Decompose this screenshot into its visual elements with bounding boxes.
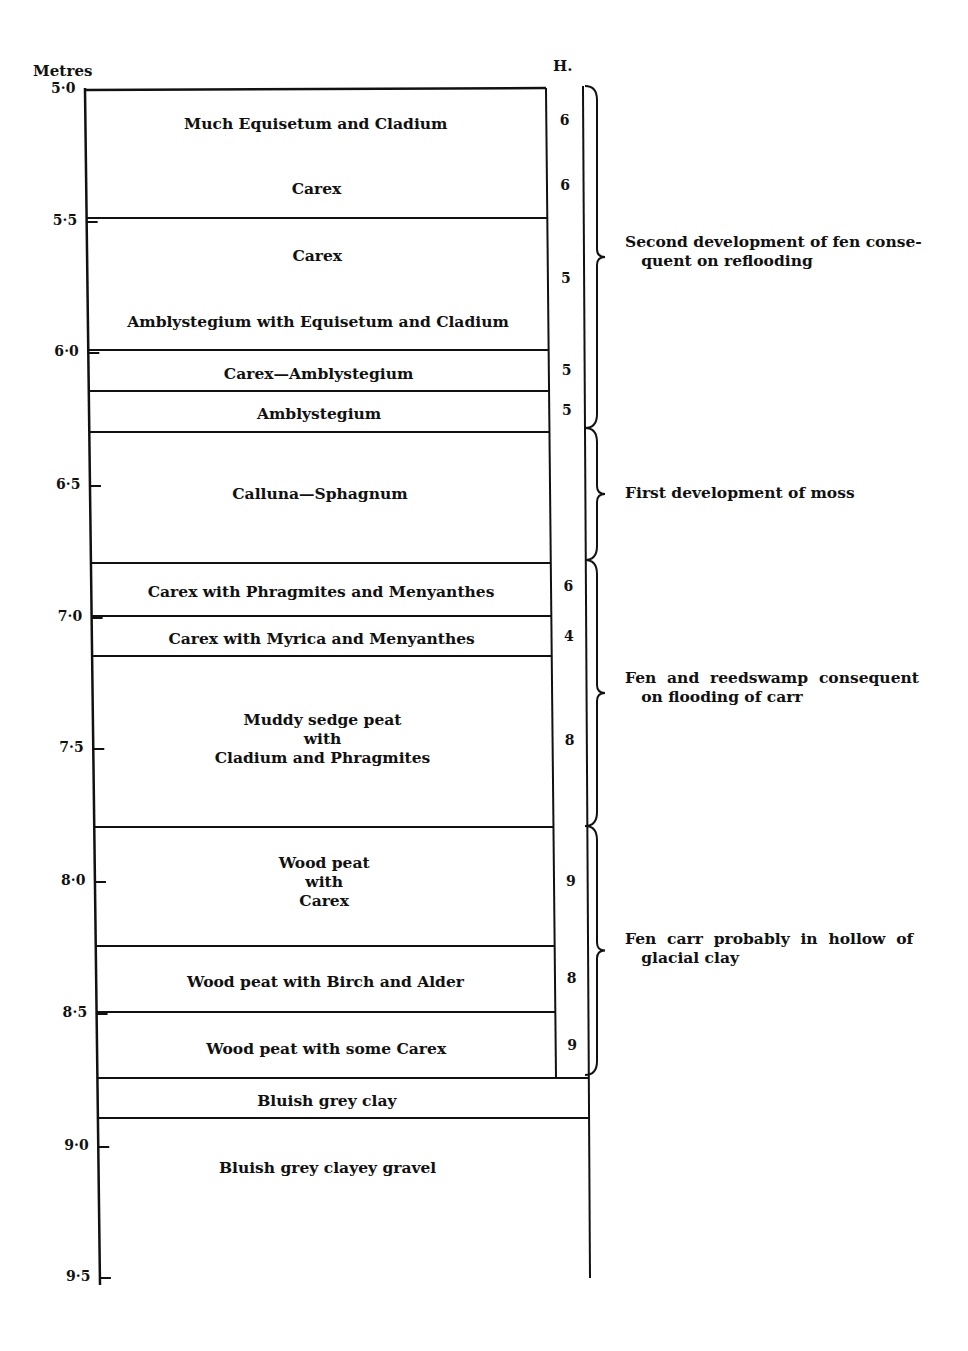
depth-axis-line <box>85 88 100 1285</box>
column-top-border <box>85 88 546 90</box>
diagram-lines <box>0 0 968 1351</box>
layer-column-right-border <box>546 88 556 1078</box>
curly-brace-icon <box>585 86 605 428</box>
curly-brace-icon <box>585 428 605 560</box>
h-column-right-border <box>583 86 590 1278</box>
